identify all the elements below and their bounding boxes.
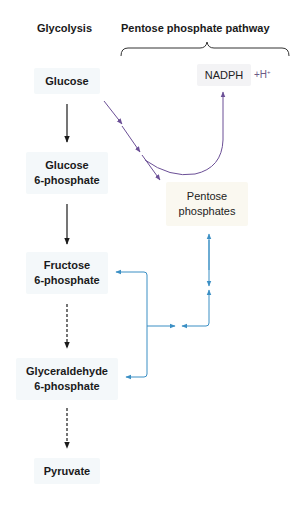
arrow-to-gap (126, 326, 147, 377)
arrow-to-nadph (145, 92, 223, 175)
pathway-brace (121, 42, 289, 56)
arrow-glucose-pp-2 (122, 126, 140, 152)
pathway-diagram: Glycolysis Pentose phosphate pathway Glu… (0, 0, 302, 507)
arrow-glucose-pp-1 (104, 101, 122, 124)
arrow-from-pp-to-merge (182, 295, 209, 326)
arrows-layer (0, 0, 302, 507)
arrow-to-f6p (116, 272, 147, 326)
